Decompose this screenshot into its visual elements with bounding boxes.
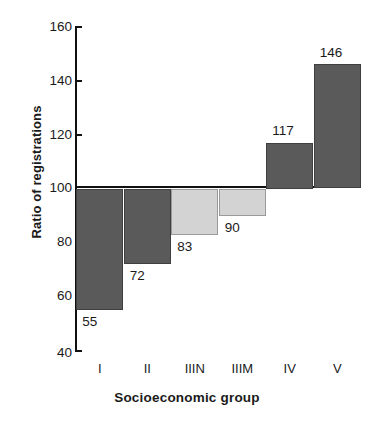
y-tick-label-160: 160	[38, 20, 72, 34]
y-tick-label-60: 60	[38, 289, 72, 303]
bar-IIIM	[219, 189, 266, 216]
y-tick-label-80: 80	[38, 235, 72, 249]
y-tick-label-40: 40	[38, 346, 72, 360]
bar-value-IIIM: 90	[225, 221, 240, 235]
x-axis-title: Socioeconomic group	[0, 390, 374, 405]
plot-area	[76, 26, 361, 351]
bar-IV	[266, 143, 313, 189]
y-axis-tick-labels: 160 140 120 100 80 60 40	[36, 0, 72, 422]
y-tick-label-100: 100	[38, 181, 72, 195]
x-tick-label-V: V	[308, 362, 366, 375]
bar-IIIN	[171, 189, 218, 235]
bar-value-IV: 117	[272, 124, 294, 138]
y-tick-label-120: 120	[38, 128, 72, 142]
bar-chart: Ratio of registrations 160 140 120 100 8…	[0, 0, 374, 422]
bar-I	[76, 189, 123, 311]
bar-II	[124, 189, 171, 265]
bar-V	[314, 64, 361, 189]
bar-value-IIIN: 83	[177, 240, 192, 254]
bar-value-V: 146	[320, 46, 343, 60]
y-tick-label-140: 140	[38, 74, 72, 88]
bar-value-II: 72	[130, 269, 145, 283]
bar-value-I: 55	[82, 315, 97, 329]
